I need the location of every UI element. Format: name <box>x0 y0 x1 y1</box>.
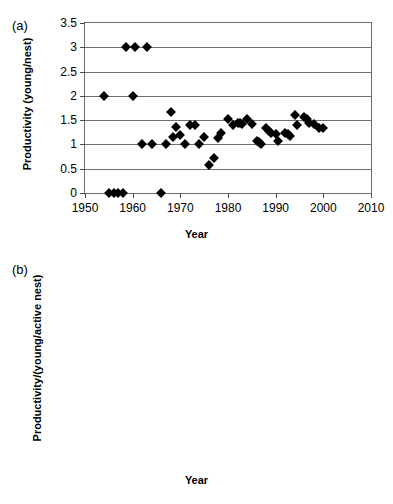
x-axis-tick-label: 1950 <box>72 202 99 214</box>
data-point <box>166 107 176 117</box>
figure-container: (a) Productivity (young/nest) Year 00.51… <box>0 0 393 504</box>
y-axis-tick-label: 3 <box>70 41 77 53</box>
y-axis-tick-label: 1 <box>70 138 77 150</box>
data-point <box>175 130 185 140</box>
y-axis-tick-label: 3.5 <box>60 17 77 29</box>
x-axis-tick-label: 2010 <box>358 202 385 214</box>
y-axis-tick-label: 2 <box>70 90 77 102</box>
x-axis-tick-label: 1980 <box>215 202 242 214</box>
x-axis-tick-label: 1960 <box>119 202 146 214</box>
panel-b-tag: (b) <box>12 262 28 277</box>
panel-b-y-axis-label: Productivity/(young/active nest) <box>31 258 43 458</box>
panel-a: (a) Productivity (young/nest) Year 00.51… <box>0 0 393 252</box>
y-axis-tick-label: 2.5 <box>60 66 77 78</box>
x-axis-tick <box>228 193 229 198</box>
data-point <box>161 139 171 149</box>
y-axis-tick <box>80 169 85 170</box>
data-point <box>156 188 166 198</box>
x-axis-tick-label: 1990 <box>262 202 289 214</box>
gridline-y <box>85 72 371 73</box>
y-axis-tick <box>80 47 85 48</box>
data-point <box>130 42 140 52</box>
panel-a-plot-area: 00.511.522.533.5195019601970198019902000… <box>84 22 372 194</box>
data-point <box>256 139 266 149</box>
panel-a-y-axis-label: Productivity (young/nest) <box>21 29 33 179</box>
gridline-y <box>85 169 371 170</box>
gridline-y <box>85 144 371 145</box>
y-axis-tick <box>80 120 85 121</box>
panel-a-x-axis-label: Year <box>0 228 393 240</box>
x-axis-tick <box>85 193 86 198</box>
y-axis-tick-label: 1.5 <box>60 114 77 126</box>
data-point <box>290 110 300 120</box>
data-point <box>292 120 302 130</box>
data-point <box>128 91 138 101</box>
y-axis-tick <box>80 96 85 97</box>
x-axis-tick <box>371 193 372 198</box>
panel-b-x-axis-label: Year <box>0 474 393 486</box>
y-axis-tick <box>80 23 85 24</box>
x-axis-tick <box>180 193 181 198</box>
x-axis-tick <box>276 193 277 198</box>
x-axis-tick-label: 1970 <box>167 202 194 214</box>
y-axis-tick <box>80 144 85 145</box>
data-point <box>99 91 109 101</box>
panel-b: (b) Productivity/(young/active nest) Yea… <box>0 252 393 504</box>
data-point <box>121 42 131 52</box>
data-point <box>118 188 128 198</box>
y-axis-tick-label: 0 <box>70 187 77 199</box>
y-axis-tick <box>80 72 85 73</box>
x-axis-tick <box>323 193 324 198</box>
data-point <box>180 139 190 149</box>
data-point <box>147 139 157 149</box>
y-axis-tick-label: 0.5 <box>60 163 77 175</box>
data-point <box>142 42 152 52</box>
data-point <box>137 139 147 149</box>
x-axis-tick <box>133 193 134 198</box>
x-axis-tick-label: 2000 <box>310 202 337 214</box>
